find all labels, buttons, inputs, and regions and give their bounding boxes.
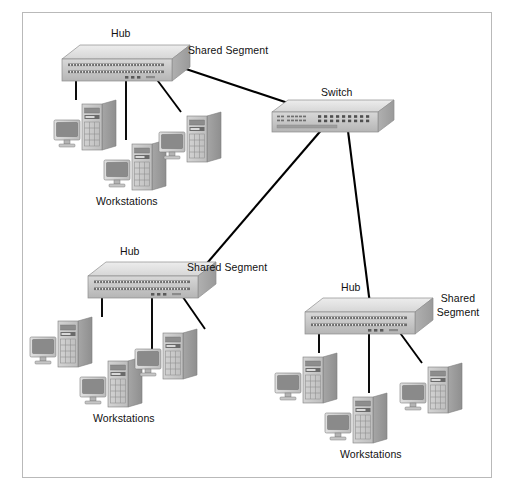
label-workstations-bottom-right: Workstations xyxy=(340,448,402,461)
label-hub-bottom-right: Hub xyxy=(341,281,361,294)
label-switch: Switch xyxy=(321,86,353,99)
device-layer xyxy=(62,45,433,334)
topology-canvas xyxy=(0,0,512,499)
workstation[interactable] xyxy=(30,317,92,367)
workstation[interactable] xyxy=(54,100,116,150)
hub-bottom-right[interactable] xyxy=(305,298,433,334)
workstation[interactable] xyxy=(104,140,166,190)
workstation[interactable] xyxy=(275,353,337,403)
label-hub-top: Hub xyxy=(111,27,131,40)
workstation[interactable] xyxy=(400,363,462,413)
label-workstations-top: Workstations xyxy=(96,195,158,208)
label-shared-segment-bottom-line1: Shared xyxy=(430,292,486,305)
diagram-page: Hub Shared Segment Switch Workstations H… xyxy=(0,0,512,499)
switch-device[interactable] xyxy=(272,100,394,132)
workstation-group-top xyxy=(54,100,221,190)
label-shared-segment-bottom-line2: Segment xyxy=(430,306,486,319)
workstation[interactable] xyxy=(325,393,387,443)
label-shared-segment-top: Shared Segment xyxy=(188,44,268,57)
workstation[interactable] xyxy=(159,112,221,162)
label-workstations-middle: Workstations xyxy=(93,412,155,425)
workstation[interactable] xyxy=(135,329,197,379)
workstation-group-middle xyxy=(30,317,197,407)
label-hub-middle: Hub xyxy=(120,245,140,258)
workstation[interactable] xyxy=(80,357,142,407)
hub-top[interactable] xyxy=(62,45,190,81)
label-shared-segment-middle: Shared Segment xyxy=(187,261,267,274)
